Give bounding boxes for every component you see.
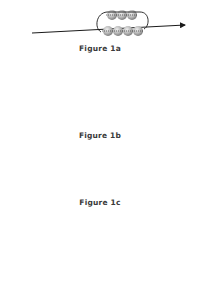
figure-1c-label: Figure 1c	[0, 198, 200, 207]
figure-1b-label: Figure 1b	[0, 131, 200, 140]
figure-1a	[32, 10, 185, 36]
beading-diagram	[0, 0, 200, 281]
figure-1a-label: Figure 1a	[0, 44, 200, 53]
